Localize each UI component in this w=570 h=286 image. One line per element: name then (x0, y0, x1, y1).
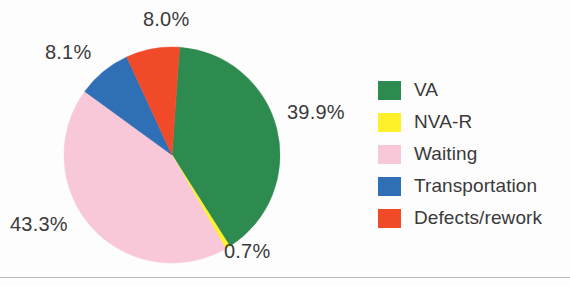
slice-value-label-defects-rework: 8.0% (143, 8, 189, 31)
bottom-divider (0, 277, 570, 278)
pie-chart-figure: 39.9% 0.7% 43.3% 8.1% 8.0% VANVA-RWaitin… (0, 0, 570, 286)
legend-item: VA (378, 74, 563, 106)
legend-item-label: Defects/rework (414, 207, 542, 229)
legend-item: NVA-R (378, 106, 563, 138)
legend-swatch-icon (378, 113, 401, 132)
legend-swatch-icon (378, 177, 401, 196)
chart-legend: VANVA-RWaitingTransportationDefects/rewo… (378, 74, 563, 234)
slice-value-label-waiting: 43.3% (10, 213, 68, 236)
slice-value-label-nva-r: 0.7% (224, 240, 270, 263)
legend-swatch-icon (378, 81, 401, 100)
legend-item-label: NVA-R (414, 111, 472, 133)
legend-item-label: Transportation (414, 175, 537, 197)
slice-value-label-va: 39.9% (287, 101, 345, 124)
legend-swatch-icon (378, 209, 401, 228)
legend-item-label: VA (414, 79, 438, 101)
legend-item: Transportation (378, 170, 563, 202)
pie-slice-group (64, 47, 280, 263)
legend-item: Waiting (378, 138, 563, 170)
legend-item-label: Waiting (414, 143, 477, 165)
legend-item: Defects/rework (378, 202, 563, 234)
slice-value-label-transportation: 8.1% (45, 41, 91, 64)
legend-swatch-icon (378, 145, 401, 164)
